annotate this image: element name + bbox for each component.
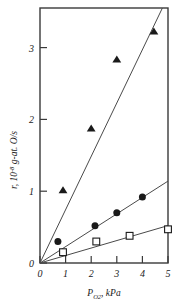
- x-tick-label: 1: [63, 268, 68, 279]
- data-point-circle: [92, 222, 99, 229]
- x-tick-label: 3: [113, 268, 119, 279]
- y-tick-label: 3: [28, 43, 34, 54]
- data-point-square: [60, 249, 67, 256]
- y-axis-ticks: [40, 48, 47, 263]
- y-axis-title: r, 10-8 g-at. O/s: [8, 131, 19, 189]
- x-axis-title: PO2, kPa: [86, 288, 121, 300]
- x-axis-title-rest: , kPa: [101, 288, 121, 298]
- data-point-circle: [54, 238, 61, 245]
- fit-lines: [40, 8, 168, 263]
- y-tick-label: 0: [29, 258, 34, 269]
- data-point-square: [93, 238, 100, 245]
- y-tick-label: 1: [29, 186, 34, 197]
- fit-line-triangles: [40, 8, 162, 263]
- data-point-circle: [113, 209, 120, 216]
- scatter-plot: 0 1 2 3 4 5 0 1 2 3: [0, 0, 189, 301]
- svg-text:PO2, kPa: PO2, kPa: [86, 288, 121, 300]
- data-point-triangle: [112, 56, 121, 63]
- data-point-triangle: [87, 125, 96, 132]
- x-tick-labels: 0 1 2 3 4 5: [38, 268, 171, 279]
- data-point-circle: [139, 193, 146, 200]
- x-tick-label: 2: [89, 268, 94, 279]
- data-point-square: [165, 226, 172, 233]
- series-triangles: [59, 28, 159, 194]
- y-tick-label: 2: [29, 114, 34, 125]
- y-axis-title-rest: g-at. O/s: [9, 131, 19, 167]
- y-axis-title-main: r, 10: [9, 172, 19, 189]
- plot-frame: [40, 8, 168, 263]
- x-tick-label: 0: [38, 268, 43, 279]
- svg-text:r, 10-8 g-at. O/s: r, 10-8 g-at. O/s: [8, 131, 19, 189]
- data-point-triangle: [59, 186, 68, 193]
- x-tick-label: 5: [166, 268, 171, 279]
- x-tick-label: 4: [140, 268, 145, 279]
- chart-figure: 0 1 2 3 4 5 0 1 2 3: [0, 0, 189, 301]
- data-point-square: [126, 232, 133, 239]
- y-tick-labels: 0 1 2 3: [28, 43, 34, 269]
